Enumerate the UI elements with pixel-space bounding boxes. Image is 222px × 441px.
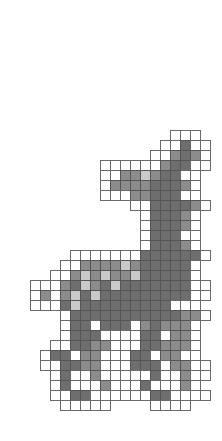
grid-cell (200, 370, 211, 381)
grid-cell (180, 400, 191, 411)
grid-cell (200, 160, 211, 171)
grid-cell (200, 250, 211, 261)
grid-cell (200, 310, 211, 321)
grid-cell (200, 200, 211, 211)
grid-cell (200, 290, 211, 301)
deer-grid-drawing (0, 0, 222, 441)
grid-cell (200, 390, 211, 401)
grid-cell (100, 400, 111, 411)
